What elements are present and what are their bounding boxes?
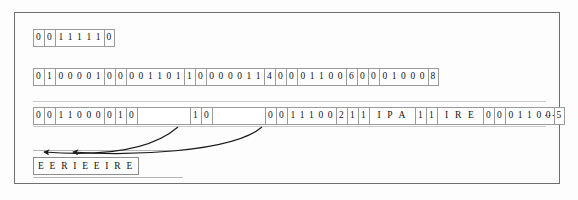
bit-cell: 0 bbox=[33, 68, 44, 86]
bit-cell: 0 bbox=[275, 68, 286, 86]
bit-cell: 0 bbox=[276, 107, 287, 125]
bit-cell: 0 1 1 0 0 bbox=[297, 68, 346, 86]
bit-cell: 0 bbox=[104, 68, 115, 86]
bit-cell: 4 bbox=[264, 68, 275, 86]
bit-cell: 0 bbox=[357, 68, 368, 86]
bit-cell: 1 1 1 1 1 bbox=[55, 29, 104, 47]
bit-cell: 1 bbox=[115, 107, 126, 125]
bit-cell: 0 bbox=[201, 107, 212, 125]
bit-cell: 0 1 0 0 0 bbox=[379, 68, 428, 86]
bit-cell: 1 bbox=[44, 68, 55, 86]
bit-cell: 1 bbox=[184, 68, 195, 86]
bit-cell: 8 bbox=[428, 68, 439, 86]
bit-cell: I P A bbox=[369, 107, 415, 125]
bit-cell: 1 bbox=[415, 107, 426, 125]
bit-cell bbox=[137, 107, 190, 125]
bit-row-1: 001 1 1 1 10 bbox=[33, 29, 115, 47]
bit-cell: 0 0 1 1 0 1 bbox=[126, 68, 184, 86]
bit-cell: 0 bbox=[126, 107, 137, 125]
bit-cell: 0 bbox=[104, 29, 115, 47]
bit-cell: 1 1 1 0 0 bbox=[287, 107, 336, 125]
bit-cell: I R E bbox=[437, 107, 483, 125]
row-3-guide-rule-bottom bbox=[33, 126, 546, 127]
result-underline-top bbox=[33, 150, 183, 151]
bit-cell: 2 bbox=[336, 107, 347, 125]
bit-cell: 0 bbox=[483, 107, 494, 125]
bit-cell: 0 bbox=[33, 29, 44, 47]
bit-cell: 1 bbox=[190, 107, 201, 125]
bit-cell: 0 bbox=[33, 107, 44, 125]
bit-row-2: 010 0 0 0 1000 0 1 1 0 1100 0 0 0 1 1400… bbox=[33, 68, 439, 86]
bit-cell: 0 bbox=[115, 68, 126, 86]
bit-cell: 0 0 0 0 1 bbox=[55, 68, 104, 86]
decoded-string-box: E E R I E E I R E bbox=[33, 157, 139, 175]
bit-cell: 1 bbox=[347, 107, 358, 125]
row-3-guide-rule-top bbox=[33, 101, 546, 102]
result-underline-bottom bbox=[33, 177, 183, 178]
figure-canvas: 001 1 1 1 10 010 0 0 0 1000 0 1 1 0 1100… bbox=[0, 0, 578, 200]
bit-cell: 0 bbox=[104, 107, 115, 125]
bit-row-3: 001 1 0 0 001010001 1 1 0 0211I P A11I R… bbox=[33, 107, 565, 125]
bit-cell: 0 bbox=[265, 107, 276, 125]
bit-cell: 0 bbox=[494, 107, 505, 125]
bit-cell: 0 bbox=[286, 68, 297, 86]
bit-cell: 1 bbox=[358, 107, 369, 125]
bit-cell: 1 1 0 0 0 bbox=[55, 107, 104, 125]
bit-cell: 1 bbox=[426, 107, 437, 125]
bit-cell bbox=[212, 107, 265, 125]
bit-cell: 0 bbox=[44, 107, 55, 125]
bit-cell: 0 0 0 0 1 1 bbox=[206, 68, 264, 86]
bit-cell: 0 bbox=[44, 29, 55, 47]
bit-cell: 0 bbox=[368, 68, 379, 86]
row-3-continuation-ellipsis: ⋯ bbox=[544, 107, 556, 125]
bit-cell: 6 bbox=[346, 68, 357, 86]
bit-cell: 0 bbox=[195, 68, 206, 86]
